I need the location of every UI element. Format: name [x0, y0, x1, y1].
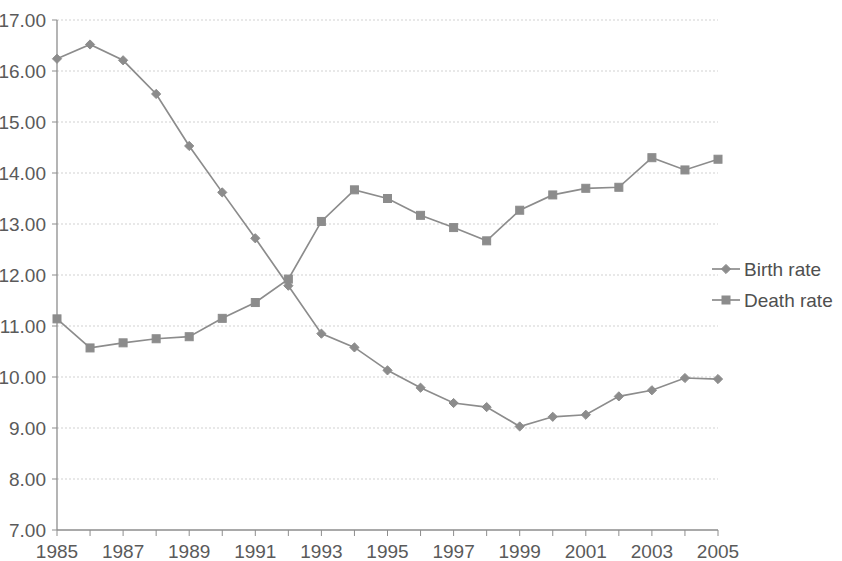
x-axis-tick-label: 2005	[697, 541, 739, 561]
data-point-marker	[218, 314, 226, 322]
data-point-marker	[317, 217, 325, 225]
data-point-marker	[582, 184, 590, 192]
y-axis-tick-label: 16.00	[0, 61, 46, 82]
y-axis-tick-label: 9.00	[9, 418, 46, 439]
y-axis-tick-label: 10.00	[0, 367, 46, 388]
x-axis-tick-label: 1995	[366, 541, 408, 561]
data-point-marker	[483, 237, 491, 245]
y-axis-tick-label: 12.00	[0, 265, 46, 286]
data-point-marker	[384, 195, 392, 203]
x-axis-tick-label: 1987	[102, 541, 144, 561]
x-axis-tick-label: 1991	[234, 541, 276, 561]
data-point-marker	[615, 183, 623, 191]
data-point-marker	[284, 275, 292, 283]
x-axis-tick-label: 2001	[565, 541, 607, 561]
legend-label: Death rate	[744, 290, 833, 311]
data-point-marker	[119, 339, 127, 347]
y-axis-tick-label: 15.00	[0, 112, 46, 133]
data-point-marker	[681, 166, 689, 174]
y-axis-tick-label: 13.00	[0, 214, 46, 235]
y-axis-tick-label: 11.00	[0, 316, 46, 337]
x-axis-tick-label: 1985	[36, 541, 78, 561]
x-axis-tick-label: 1997	[432, 541, 474, 561]
data-point-marker	[516, 206, 524, 214]
y-axis-tick-label: 17.00	[0, 10, 46, 31]
data-point-marker	[350, 186, 358, 194]
chart-background	[0, 0, 842, 561]
line-chart: 17.0016.0015.0014.0013.0012.0011.0010.00…	[0, 0, 842, 561]
data-point-marker	[648, 154, 656, 162]
data-point-marker	[450, 224, 458, 232]
x-axis-tick-label: 1989	[168, 541, 210, 561]
data-point-marker	[417, 211, 425, 219]
x-axis-tick-labels: 1985198719891991199319951997199920012003…	[36, 541, 739, 561]
legend-marker-square-icon	[722, 296, 730, 304]
data-point-marker	[53, 315, 61, 323]
y-axis-tick-label: 8.00	[9, 469, 46, 490]
data-point-marker	[86, 344, 94, 352]
x-axis-tick-label: 1993	[300, 541, 342, 561]
data-point-marker	[185, 333, 193, 341]
data-point-marker	[251, 299, 259, 307]
y-axis-tick-label: 14.00	[0, 163, 46, 184]
x-axis-tick-label: 1999	[499, 541, 541, 561]
x-axis-tick-label: 2003	[631, 541, 673, 561]
data-point-marker	[152, 335, 160, 343]
y-axis-tick-label: 7.00	[9, 520, 46, 541]
data-point-marker	[714, 155, 722, 163]
data-point-marker	[549, 191, 557, 199]
chart-canvas: 17.0016.0015.0014.0013.0012.0011.0010.00…	[0, 0, 842, 561]
legend-label: Birth rate	[744, 259, 821, 280]
